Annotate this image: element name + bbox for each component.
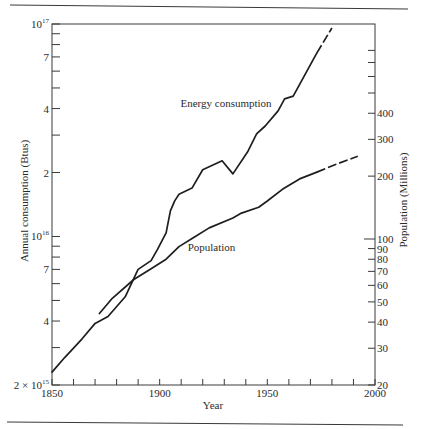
y-tick-label-base: 7 bbox=[44, 51, 50, 63]
y-tick-label-base: 4 bbox=[44, 103, 50, 115]
y2-tick-label: 70 bbox=[377, 265, 389, 277]
y2-tick-label: 300 bbox=[377, 133, 394, 145]
y-tick-label: 7 bbox=[44, 51, 50, 63]
x-axis-ticks: 1850190019502000 bbox=[41, 379, 387, 399]
x-axis-title: Year bbox=[203, 399, 224, 411]
y2-tick-label: 50 bbox=[377, 296, 389, 308]
left-y-axis-title: Annual consumption (Btus) bbox=[18, 140, 31, 263]
curve-label: Energy consumption bbox=[180, 97, 272, 109]
y-tick-label-base: 10 bbox=[31, 230, 43, 242]
y-tick-label: 4 bbox=[44, 315, 50, 327]
y2-tick-label: 200 bbox=[377, 170, 394, 182]
y-tick-label-exponent: 16 bbox=[42, 229, 50, 237]
curve-label: Population bbox=[188, 241, 236, 253]
right-y-axis-title: Population (Millions) bbox=[397, 152, 410, 247]
y2-tick-label: 20 bbox=[377, 379, 389, 391]
y2-tick-label: 30 bbox=[377, 342, 389, 354]
y-tick-label-base: 2 bbox=[44, 167, 50, 179]
y2-tick-label: 400 bbox=[377, 107, 394, 119]
bottom-rule bbox=[7, 422, 403, 425]
y-tick-label-base: 4 bbox=[44, 315, 50, 327]
y-tick-label-base: 7 bbox=[44, 263, 50, 275]
energy-consumption-dashed-line bbox=[317, 28, 332, 53]
y-tick-label-base: 2 × 10 bbox=[14, 379, 43, 391]
top-rule bbox=[10, 5, 408, 9]
y-tick-label: 1016 bbox=[31, 229, 50, 242]
curve-labels: Energy consumptionPopulation bbox=[180, 97, 272, 253]
chart-svg: 1850190019502000 10177421016742 × 1015 4… bbox=[0, 0, 422, 429]
x-tick-label: 1900 bbox=[149, 387, 172, 399]
series-lines bbox=[52, 28, 358, 372]
figure: 1850190019502000 10177421016742 × 1015 4… bbox=[0, 0, 422, 429]
y-tick-label: 7 bbox=[44, 263, 50, 275]
y-tick-label: 4 bbox=[44, 103, 50, 115]
population-dashed-line bbox=[317, 156, 358, 172]
y-tick-label-exponent: 15 bbox=[42, 378, 50, 386]
y2-tick-label: 60 bbox=[377, 279, 389, 291]
x-tick-label: 1950 bbox=[256, 387, 279, 399]
plot-frame bbox=[52, 24, 375, 385]
y2-tick-label: 40 bbox=[377, 316, 389, 328]
y-tick-label: 2 bbox=[44, 167, 50, 179]
y2-tick-label: 80 bbox=[377, 253, 389, 265]
y-tick-label-base: 10 bbox=[31, 18, 43, 30]
right-y-axis-ticks: 4003002001009080706050403020 bbox=[364, 50, 394, 391]
y-tick-label-exponent: 17 bbox=[42, 17, 50, 25]
x-tick-label: 1850 bbox=[41, 387, 64, 399]
y-tick-label: 1017 bbox=[31, 17, 50, 30]
